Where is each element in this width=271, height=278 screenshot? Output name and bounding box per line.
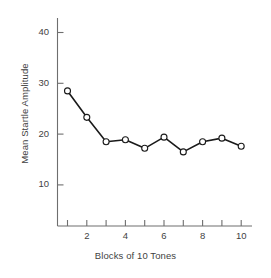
x-axis-tick-label: 4 <box>115 230 135 241</box>
axis-lines <box>58 18 253 226</box>
x-axis-ticks <box>68 220 242 226</box>
data-point-marker <box>161 134 167 140</box>
y-axis-tick-label: 20 <box>31 128 49 139</box>
x-axis-tick-label: 2 <box>77 230 97 241</box>
data-point-marker <box>142 145 148 151</box>
data-markers <box>65 88 245 155</box>
y-axis-tick-label: 30 <box>31 77 49 88</box>
chart-figure: Mean Startle Amplitude Blocks of 10 Tone… <box>0 0 271 278</box>
data-point-marker <box>180 149 186 155</box>
data-point-marker <box>219 135 225 141</box>
data-point-marker <box>84 114 90 120</box>
x-axis-tick-label: 10 <box>231 230 251 241</box>
x-axis-tick-label: 8 <box>193 230 213 241</box>
x-axis-title: Blocks of 10 Tones <box>0 250 271 261</box>
data-point-marker <box>238 143 244 149</box>
data-point-marker <box>122 137 128 143</box>
data-point-marker <box>103 139 109 145</box>
data-point-marker <box>65 88 71 94</box>
data-line <box>68 91 242 152</box>
y-axis-tick-label: 40 <box>31 26 49 37</box>
x-axis-tick-label: 6 <box>154 230 174 241</box>
data-point-marker <box>200 139 206 145</box>
y-axis-title: Mean Startle Amplitude <box>19 44 30 184</box>
y-axis-tick-label: 10 <box>31 178 49 189</box>
y-axis-ticks <box>58 33 64 185</box>
